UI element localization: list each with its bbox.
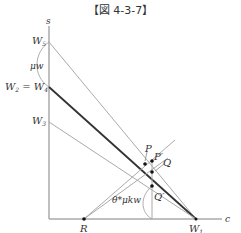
diagram-canvas: s c W5 μw W2 = W4 W3 W1 R P P′ Q Q′ θ*μk… bbox=[0, 0, 241, 233]
label-q-prime: Q′ bbox=[154, 191, 165, 202]
arc-theta-mu-k-w bbox=[143, 186, 152, 219]
label-r: R bbox=[79, 223, 88, 233]
point-r bbox=[82, 217, 86, 221]
label-w3: W3 bbox=[32, 115, 46, 127]
label-w5: W5 bbox=[32, 35, 46, 47]
line-r-q bbox=[84, 158, 168, 219]
point-q bbox=[150, 170, 154, 174]
c-axis-label: c bbox=[225, 214, 230, 224]
label-w1: W1 bbox=[189, 223, 203, 233]
label-w2-eq-w4: W2 = W4 bbox=[5, 81, 48, 93]
point-p bbox=[143, 162, 147, 166]
s-axis-label: s bbox=[46, 16, 51, 26]
point-w1 bbox=[195, 218, 198, 221]
line-w5-w1 bbox=[49, 42, 196, 219]
label-mu-w: μw bbox=[30, 61, 44, 71]
point-q-prime bbox=[150, 184, 154, 188]
label-q: Q bbox=[163, 157, 171, 168]
label-p: P bbox=[144, 143, 152, 154]
label-theta-mu-k-w: θ*μkw bbox=[112, 195, 141, 205]
